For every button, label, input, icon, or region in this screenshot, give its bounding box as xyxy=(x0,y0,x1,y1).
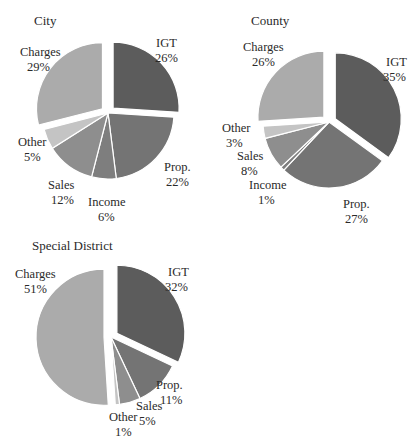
county-label-charges: Charges 26% xyxy=(243,40,287,69)
special-district-pie-chart: Special District Charges 51% IGT 32% Pro… xyxy=(15,238,192,439)
special-label-other: Other 1% xyxy=(109,410,141,439)
special-label-charges: Charges 51% xyxy=(15,267,59,296)
county-pie-slices xyxy=(258,51,401,188)
special-label-igt: IGT 32% xyxy=(165,265,192,294)
county-pie-chart: County Charges 26% IGT 35% Other 3% Sale… xyxy=(222,13,410,226)
city-label-prop: Prop. 22% xyxy=(164,160,194,189)
city-title: City xyxy=(34,13,57,28)
county-label-income: Income 1% xyxy=(249,178,290,207)
county-title: County xyxy=(251,13,290,28)
city-label-sales: Sales 12% xyxy=(48,178,78,207)
city-label-igt: IGT 26% xyxy=(155,36,180,65)
county-label-igt: IGT 35% xyxy=(383,55,410,84)
pie-charts-figure: City Charges 29% IGT 26% Other 5% Prop. … xyxy=(0,0,418,448)
county-label-sales: Sales 8% xyxy=(237,149,267,178)
city-label-income: Income 6% xyxy=(88,195,129,224)
county-label-other: Other 3% xyxy=(222,121,254,150)
city-label-other: Other 5% xyxy=(18,135,50,164)
city-pie-chart: City Charges 29% IGT 26% Other 5% Prop. … xyxy=(18,13,194,224)
special-district-title: Special District xyxy=(32,238,113,253)
county-label-prop: Prop. 27% xyxy=(343,197,373,226)
